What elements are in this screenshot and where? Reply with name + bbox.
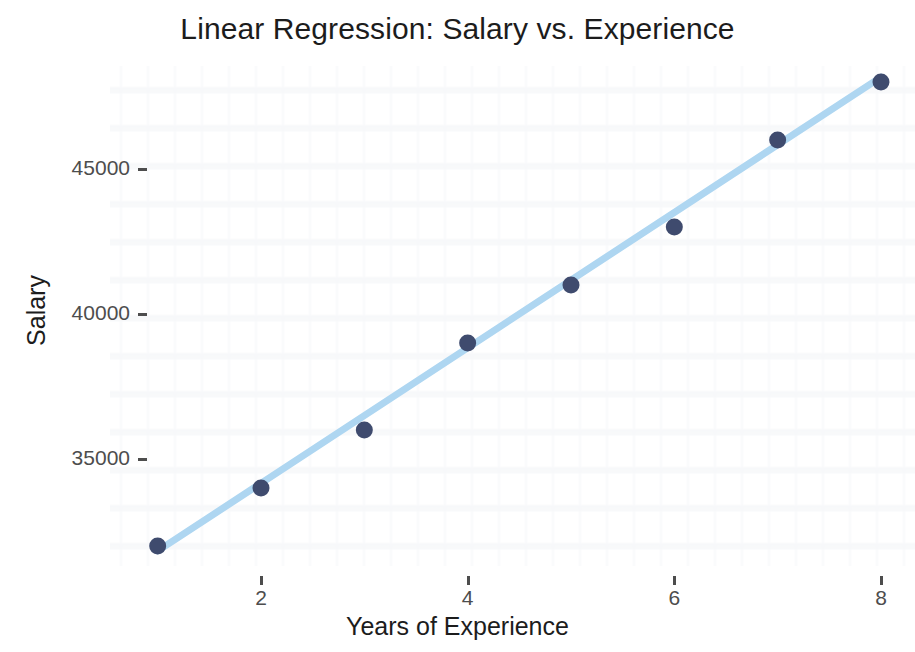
- chart-container: Linear Regression: Salary vs. Experience…: [0, 0, 915, 652]
- data-point: [356, 422, 373, 439]
- data-point: [872, 74, 889, 91]
- regression-line: [158, 77, 881, 551]
- data-point: [562, 277, 579, 294]
- regression-line-segment: [158, 77, 881, 551]
- data-point: [253, 480, 270, 497]
- data-point: [149, 538, 166, 555]
- data-point: [666, 219, 683, 236]
- plot-surface: [0, 0, 915, 652]
- data-point: [459, 335, 476, 352]
- data-point: [769, 132, 786, 149]
